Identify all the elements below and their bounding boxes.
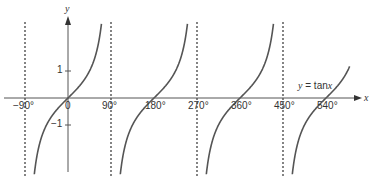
axes <box>4 16 362 172</box>
y-tick-label-1: 1 <box>57 64 63 75</box>
x-tick-label: 180° <box>145 100 166 111</box>
y-axis-label: y <box>65 3 69 14</box>
function-label: y = tanx <box>298 80 332 91</box>
x-tick-label: 360° <box>231 100 252 111</box>
x-tick-label: 540° <box>317 100 338 111</box>
x-tick-label: 0 <box>65 100 71 111</box>
x-axis-arrow-icon <box>354 95 362 101</box>
x-tick-label: 270° <box>188 100 209 111</box>
function-label-tan: tan <box>314 80 328 91</box>
function-label-var: x <box>328 80 332 91</box>
y-tick-label-neg1: −1 <box>51 118 62 129</box>
x-tick-label: 90° <box>102 100 117 111</box>
x-tick-label: 450° <box>274 100 295 111</box>
x-tick-label: −90° <box>13 100 34 111</box>
tan-graph <box>0 0 371 184</box>
x-axis-label: x <box>364 92 368 103</box>
y-axis-arrow-icon <box>65 16 71 25</box>
